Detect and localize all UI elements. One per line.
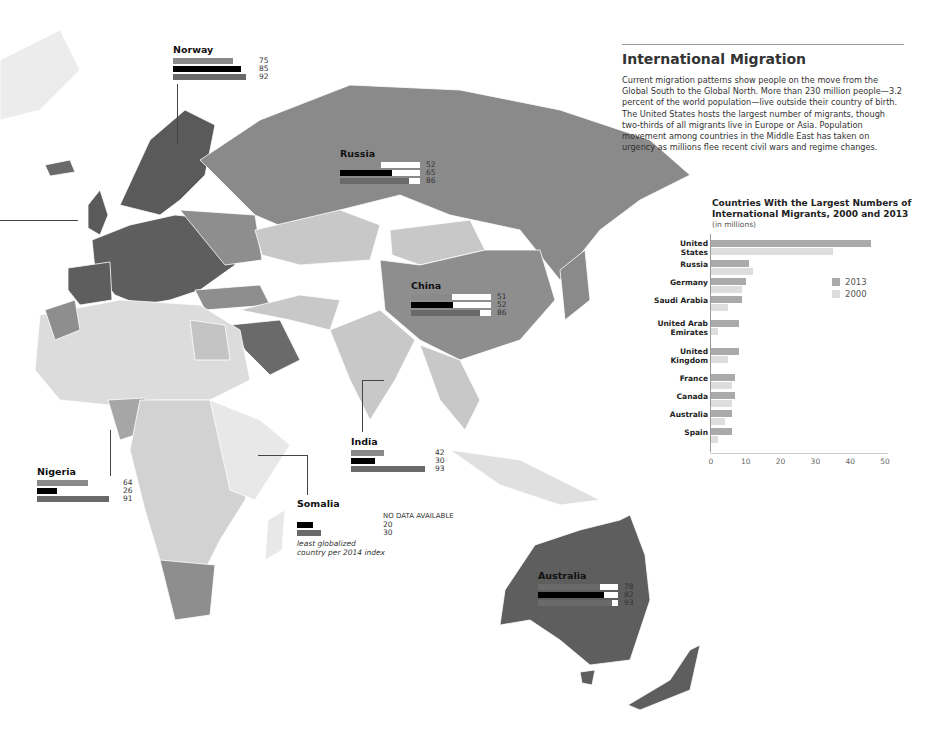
bar-2000	[711, 304, 728, 311]
bar-1	[173, 58, 233, 64]
category-label: UnitedStates	[680, 239, 708, 257]
divider	[622, 44, 904, 45]
callout-norway: Norway 75 85 92	[173, 44, 269, 81]
bar-3	[538, 600, 612, 606]
bar-1	[37, 480, 88, 486]
category-label: Russia	[680, 260, 708, 269]
region-india	[330, 310, 415, 420]
bar-2000	[711, 356, 728, 363]
bar-2013	[711, 374, 735, 381]
bar-2013	[711, 260, 749, 267]
category-label: Germany	[670, 278, 708, 287]
x-tick: 40	[845, 457, 855, 466]
legend-2013: 2013	[832, 277, 867, 287]
legend-swatch	[832, 290, 840, 298]
leader-line-somalia-h	[258, 455, 308, 456]
leader-line-norway	[177, 84, 178, 144]
bar-3	[411, 310, 480, 316]
category-label: Saudi Arabia	[654, 296, 708, 305]
bar-2000	[711, 400, 732, 407]
region-scandinavia	[120, 110, 215, 215]
callout-name: Russia	[340, 148, 436, 159]
bar-2013	[711, 296, 742, 303]
bar-2	[297, 522, 313, 528]
chart-subtitle: (in millions)	[712, 220, 756, 229]
bar-1	[411, 294, 452, 300]
bar-2	[173, 66, 241, 72]
bar-2000	[711, 248, 833, 255]
x-tick: 30	[811, 457, 821, 466]
bar-2	[351, 458, 375, 464]
callout-nigeria: Nigeria 64 26 91	[37, 466, 133, 503]
callout-russia: Russia 52 65 86	[340, 148, 436, 185]
bar-2013	[711, 240, 871, 247]
region-south-africa	[160, 560, 215, 620]
bar-3	[297, 530, 321, 536]
bar-3	[173, 74, 246, 80]
bar-2013	[711, 410, 732, 417]
bar-2013	[711, 348, 739, 355]
bar-2000	[711, 382, 732, 389]
callout-somalia: Somalia NO DATA AVAILABLE 20 30 least gl…	[297, 498, 454, 557]
panel-title: International Migration	[622, 51, 904, 67]
x-axis	[710, 453, 888, 454]
bar-3	[351, 466, 425, 472]
bar-2000	[711, 436, 718, 443]
callout-australia: Australia 78 82 93	[538, 570, 634, 607]
x-tick: 20	[776, 457, 786, 466]
callout-india: India 42 30 93	[351, 436, 445, 473]
category-label: Australia	[670, 410, 708, 419]
x-tick: 10	[741, 457, 751, 466]
info-panel: International Migration Current migratio…	[622, 44, 904, 153]
bar-2000	[711, 328, 718, 335]
bar-2013	[711, 392, 735, 399]
legend-2000: 2000	[832, 289, 867, 299]
migrants-bar-chart: Countries With the Largest Numbers of In…	[622, 198, 922, 478]
bar-2000	[711, 268, 753, 275]
leader-line-somalia-v	[307, 455, 308, 495]
callout-name: India	[351, 436, 445, 447]
bar-2013	[711, 320, 739, 327]
callout-name: Norway	[173, 44, 269, 55]
bar-1	[538, 584, 600, 590]
bar-2	[411, 302, 453, 308]
region-madagascar	[265, 510, 285, 560]
region-indonesia	[450, 450, 600, 505]
bar-2	[37, 488, 57, 494]
somalia-note: least globalizedcountry per 2014 index	[297, 539, 454, 557]
legend-swatch	[832, 278, 840, 286]
leader-line-india-h	[362, 380, 384, 381]
region-southeast-asia	[420, 345, 480, 430]
x-tick: 50	[880, 457, 890, 466]
category-label: United ArabEmirates	[657, 319, 708, 337]
panel-body: Current migration patterns show people o…	[622, 75, 904, 153]
bar-2000	[711, 286, 742, 293]
bar-2	[340, 170, 392, 176]
callout-name: China	[411, 280, 507, 291]
category-label: Canada	[677, 392, 708, 401]
x-tick: 0	[709, 457, 714, 466]
chart-title: Countries With the Largest Numbers of In…	[712, 198, 922, 220]
bar-2013	[711, 428, 732, 435]
region-uk	[88, 190, 108, 235]
region-iberia	[68, 262, 112, 305]
bar-1	[351, 450, 384, 456]
region-new-zealand	[628, 645, 700, 710]
region-tasmania	[580, 670, 595, 685]
bar-3	[37, 496, 109, 502]
bar-3	[340, 178, 409, 184]
bar-2000	[711, 418, 725, 425]
region-iceland	[45, 160, 75, 176]
callout-name: Australia	[538, 570, 634, 581]
leader-line-india	[362, 380, 363, 432]
bar-2013	[711, 278, 746, 285]
callout-name: Somalia	[297, 498, 454, 509]
category-label: France	[680, 374, 708, 383]
category-label: UnitedKingdom	[671, 347, 708, 365]
callout-name: Nigeria	[37, 466, 133, 477]
category-label: Spain	[684, 428, 708, 437]
bar-2	[538, 592, 604, 598]
leader-line-uk	[0, 220, 78, 221]
region-greenland	[0, 30, 80, 120]
bar-1	[340, 162, 381, 168]
